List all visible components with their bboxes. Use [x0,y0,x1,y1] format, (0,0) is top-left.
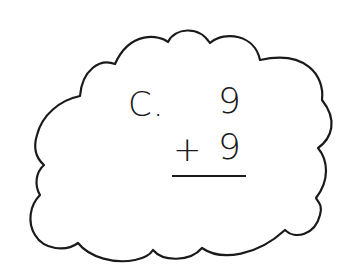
plus-operator: + [173,129,202,169]
answer-line [172,175,246,177]
bottom-addend: 9 [218,126,241,167]
top-addend: 9 [218,80,241,121]
problem-label: C. [128,84,165,124]
